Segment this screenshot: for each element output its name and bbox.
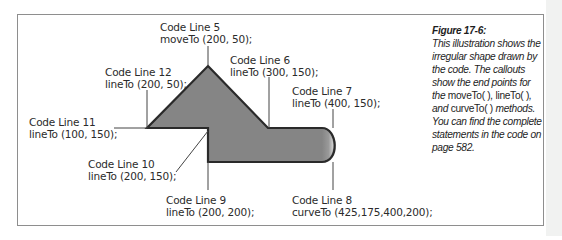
caption-code-curveto: curveTo( ) [451,103,493,114]
caption-code-moveto: moveTo( ) [448,90,491,101]
callout-line-12: Code Line 12 lineTo (200, 50); [105,66,187,90]
callout-title: Code Line 6 [230,54,318,66]
callout-title: Code Line 11 [29,116,117,128]
callout-title: Code Line 8 [292,194,433,206]
callout-line-9: Code Line 9 lineTo (200, 200); [166,194,254,218]
leader-line-10 [176,131,208,172]
callout-code: lineTo (400, 150); [292,97,380,109]
callout-line-11: Code Line 11 lineTo (100, 150); [29,116,117,140]
callout-code: lineTo (300, 150); [230,66,318,78]
figure-title: Figure 17-6: [432,24,544,37]
callout-line-5: Code Line 5 moveTo (200, 50); [160,21,252,45]
figure-caption: Figure 17-6: This illustration shows the… [432,24,544,154]
callout-code: lineTo (200, 50); [105,78,187,90]
callout-code: lineTo (100, 150); [29,128,117,140]
callout-title: Code Line 12 [105,66,187,78]
callout-line-10: Code Line 10 lineTo (200, 150); [88,158,176,182]
callout-code: lineTo (200, 200); [166,206,254,218]
callout-line-6: Code Line 6 lineTo (300, 150); [230,54,318,78]
caption-code-lineto: lineTo( ) [495,90,529,101]
callout-title: Code Line 5 [160,21,252,33]
callout-title: Code Line 9 [166,194,254,206]
callout-code: curveTo (425,175,400,200); [292,206,433,218]
callout-code: lineTo (200, 150); [88,170,176,182]
callout-title: Code Line 7 [292,85,380,97]
callout-line-7: Code Line 7 lineTo (400, 150); [292,85,380,109]
callout-title: Code Line 10 [88,158,176,170]
callout-code: moveTo (200, 50); [160,33,252,45]
callout-line-8: Code Line 8 curveTo (425,175,400,200); [292,194,433,218]
